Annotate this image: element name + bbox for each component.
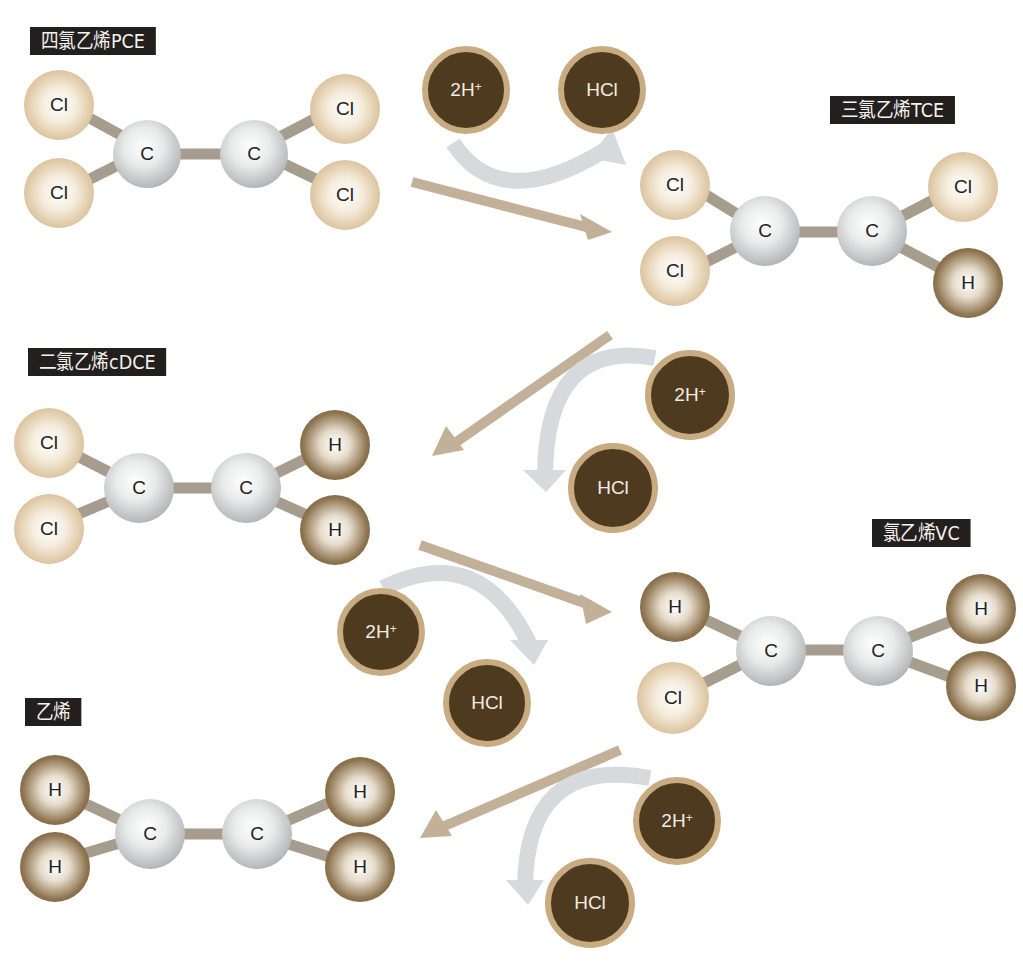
atom-c: C <box>211 453 281 523</box>
molecule-label-vc: 氯乙烯VC <box>872 519 970 547</box>
molecule-label-cdce: 二氯乙烯cDCE <box>28 348 166 376</box>
atom-cl: Cl <box>640 150 710 220</box>
atom-cl: Cl <box>14 408 84 478</box>
atom-c: C <box>730 196 800 266</box>
atom-h: H <box>20 755 90 825</box>
atom-c: C <box>104 453 174 523</box>
atom-cl: Cl <box>640 236 710 306</box>
atom-cl: Cl <box>637 662 709 734</box>
atom-c: C <box>837 196 907 266</box>
atom-h: H <box>300 410 370 480</box>
atom-cl: Cl <box>24 70 94 140</box>
dechlorination-diagram: 四氯乙烯PCE Cl Cl C C Cl Cl 2H+ HCl 三氯乙烯TCE … <box>0 0 1023 978</box>
atom-c: C <box>115 799 185 869</box>
molecule-label-pce: 四氯乙烯PCE <box>30 27 156 55</box>
hcl-product-2: HCl <box>568 443 658 533</box>
molecule-label-tce: 三氯乙烯TCE <box>830 96 955 124</box>
atom-h: H <box>20 832 90 902</box>
atom-c: C <box>843 616 913 686</box>
hcl-product-4: HCl <box>545 858 635 948</box>
proton-reactant-2: 2H+ <box>645 350 735 440</box>
atom-h: H <box>946 651 1016 721</box>
hcl-product-1: HCl <box>558 46 646 134</box>
atom-c: C <box>220 120 288 188</box>
atom-h: H <box>325 757 395 827</box>
atom-cl: Cl <box>14 494 84 564</box>
proton-reactant-4: 2H+ <box>633 777 721 865</box>
proton-reactant-3: 2H+ <box>337 588 425 676</box>
atom-c: C <box>222 799 292 869</box>
atom-c: C <box>113 120 181 188</box>
molecule-label-ethylene: 乙烯 <box>25 698 81 726</box>
atom-cl: Cl <box>310 160 380 230</box>
proton-reactant-1: 2H+ <box>422 46 510 134</box>
atom-h: H <box>933 248 1003 318</box>
atom-h: H <box>300 495 370 565</box>
atom-cl: Cl <box>310 74 380 144</box>
atom-cl: Cl <box>928 152 998 222</box>
side-arrow-1 <box>453 143 605 181</box>
atom-c: C <box>736 616 806 686</box>
atom-cl: Cl <box>24 158 94 228</box>
atom-h: H <box>640 572 710 642</box>
atom-h: H <box>946 574 1016 644</box>
hcl-product-3: HCl <box>443 659 531 747</box>
atom-h: H <box>325 832 395 902</box>
